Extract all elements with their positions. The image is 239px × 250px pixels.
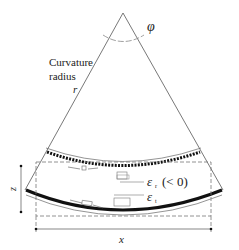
radius-label-line2: radius [49, 70, 76, 82]
dashed-bounding-box [36, 162, 211, 216]
lower-arrow-left [70, 200, 82, 203]
strain-top-note: (< 0) [162, 174, 188, 189]
bottom-layer-thick [26, 190, 222, 210]
z-dim-bottom-dot [20, 211, 23, 214]
curvature-diagram: φ Curvature radius r ε r (< 0) ε t z x [0, 0, 239, 250]
upper-element [82, 166, 86, 170]
strain-top-sub: r [155, 183, 157, 189]
lower-element [82, 200, 92, 205]
lower-element-large [114, 198, 130, 206]
x-dim-left-dot [35, 228, 38, 231]
radius-symbol: r [73, 83, 78, 95]
upper-arrow-left [68, 167, 80, 169]
angle-label: φ [147, 19, 155, 34]
upper-element-large [117, 172, 127, 179]
top-layer-dotted [47, 152, 200, 166]
height-label: z [7, 187, 18, 192]
radius-label-line1: Curvature [49, 56, 93, 68]
strain-bottom-sub: t [155, 198, 157, 204]
strain-bottom-symbol: ε [147, 189, 153, 204]
x-dim-right-dot [210, 228, 213, 231]
width-label: x [118, 233, 124, 245]
sector-right-edge [123, 13, 223, 190]
strain-top-symbol: ε [147, 174, 153, 189]
diagram-canvas: φ Curvature radius r ε r (< 0) ε t z x [0, 0, 239, 250]
upper-arrow-right [88, 168, 98, 169]
sector-left-edge [25, 13, 123, 190]
z-dim-top-dot [20, 165, 23, 168]
